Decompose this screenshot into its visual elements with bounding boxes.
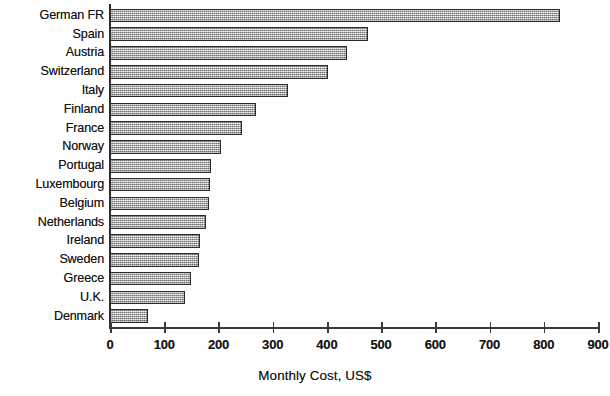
bar-row: Sweden: [0, 250, 610, 269]
bar-track: [110, 119, 242, 138]
x-tick-label: 900: [587, 337, 608, 352]
bar-row: Ireland: [0, 232, 610, 251]
category-label: Greece: [0, 272, 104, 285]
x-tick: [218, 322, 220, 333]
bar: [110, 46, 347, 60]
x-tick-label: 700: [479, 337, 500, 352]
bar-track: [110, 138, 221, 157]
bar-track: [110, 232, 200, 251]
x-tick-label: 500: [371, 337, 392, 352]
bar-track: [110, 250, 199, 269]
x-axis-title-text: Monthly Cost, US$: [258, 368, 371, 383]
bar-row: Italy: [0, 81, 610, 100]
bar: [110, 253, 199, 267]
bar: [110, 9, 560, 23]
bar-track: [110, 307, 148, 326]
category-label: France: [0, 122, 104, 135]
bar: [110, 84, 288, 98]
category-label: Netherlands: [0, 216, 104, 229]
x-tick: [381, 322, 383, 333]
bar: [110, 65, 328, 79]
category-label: Spain: [0, 28, 104, 41]
category-label: Austria: [0, 46, 104, 59]
bar-track: [110, 175, 210, 194]
bar-track: [110, 156, 211, 175]
bar-row: Norway: [0, 138, 610, 157]
category-label: Ireland: [0, 234, 104, 247]
x-tick: [164, 322, 166, 333]
bar-row: France: [0, 119, 610, 138]
x-tick-label: 0: [106, 337, 113, 352]
x-tick: [598, 322, 600, 333]
category-label: Belgium: [0, 197, 104, 210]
x-tick: [273, 322, 275, 333]
x-tick-label: 300: [262, 337, 283, 352]
category-label: Portugal: [0, 159, 104, 172]
bar-track: [110, 44, 347, 63]
x-tick-label: 200: [208, 337, 229, 352]
bar-chart: German FRSpainAustriaSwitzerlandItalyFin…: [0, 0, 610, 396]
bar-row: Finland: [0, 100, 610, 119]
x-axis-line: [109, 327, 599, 329]
category-label: U.K.: [0, 291, 104, 304]
bar: [110, 215, 206, 229]
bar: [110, 309, 148, 323]
category-label: Switzerland: [0, 65, 104, 78]
bar-row: Austria: [0, 44, 610, 63]
bar-track: [110, 213, 206, 232]
bar: [110, 272, 191, 286]
x-tick: [327, 322, 329, 333]
bar-row: Portugal: [0, 156, 610, 175]
bar-track: [110, 100, 256, 119]
bar-row: Denmark: [0, 307, 610, 326]
bar-track: [110, 25, 368, 44]
x-tick-label: 400: [316, 337, 337, 352]
bar-row: German FR: [0, 6, 610, 25]
x-tick: [490, 322, 492, 333]
bar-row: Netherlands: [0, 213, 610, 232]
bar-rows: German FRSpainAustriaSwitzerlandItalyFin…: [0, 6, 610, 326]
category-label: German FR: [0, 9, 104, 22]
category-label: Denmark: [0, 310, 104, 323]
bar: [110, 140, 221, 154]
bar: [110, 291, 185, 305]
bar-row: Greece: [0, 269, 610, 288]
x-axis-title: Monthly Cost, US$: [0, 368, 610, 383]
bar: [110, 27, 368, 41]
bar: [110, 121, 242, 135]
x-tick-label: 100: [154, 337, 175, 352]
x-tick: [110, 322, 112, 333]
bar-row: Switzerland: [0, 62, 610, 81]
x-tick: [544, 322, 546, 333]
y-axis-line: [109, 4, 111, 328]
bar-track: [110, 81, 288, 100]
bar: [110, 197, 209, 211]
x-tick-label: 600: [425, 337, 446, 352]
bar-track: [110, 194, 209, 213]
category-label: Luxembourg: [0, 178, 104, 191]
category-label: Sweden: [0, 253, 104, 266]
bar: [110, 178, 210, 192]
bar-row: Luxembourg: [0, 175, 610, 194]
bar: [110, 234, 200, 248]
x-tick-label: 800: [533, 337, 554, 352]
plot-area: German FRSpainAustriaSwitzerlandItalyFin…: [0, 0, 610, 340]
bar: [110, 159, 211, 173]
category-label: Norway: [0, 140, 104, 153]
bar-track: [110, 269, 191, 288]
bar-row: Spain: [0, 25, 610, 44]
bar-track: [110, 62, 328, 81]
bar-track: [110, 6, 560, 25]
bar-row: U.K.: [0, 288, 610, 307]
x-tick: [435, 322, 437, 333]
bar-row: Belgium: [0, 194, 610, 213]
category-label: Italy: [0, 84, 104, 97]
category-label: Finland: [0, 103, 104, 116]
bar-track: [110, 288, 185, 307]
bar: [110, 103, 256, 117]
